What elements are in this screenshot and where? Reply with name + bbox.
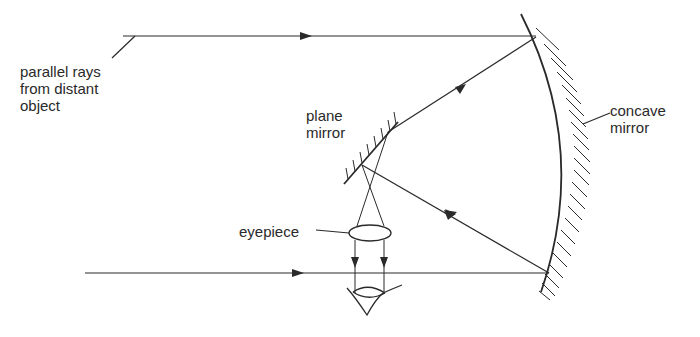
telescope-diagram <box>0 0 700 337</box>
plane-mirror-label: plane mirror <box>306 107 345 141</box>
concave-mirror-pointer <box>583 113 610 124</box>
concave-mirror <box>521 14 590 300</box>
eyepiece-output-rays <box>351 240 388 293</box>
eyepiece-label: eyepiece <box>239 223 299 240</box>
parallel-rays-pointer <box>112 36 135 58</box>
concave-mirror-label: concave mirror <box>610 102 666 136</box>
top-incoming-ray <box>123 32 536 40</box>
converging-rays <box>357 132 388 226</box>
reflected-ray-bottom <box>362 165 549 273</box>
reflected-ray-top <box>388 37 536 132</box>
parallel-rays-label: parallel rays from distant object <box>20 63 101 114</box>
plane-mirror <box>344 112 398 184</box>
eyepiece-lens <box>349 225 391 241</box>
bottom-incoming-ray <box>85 269 549 277</box>
eyepiece-pointer <box>316 230 349 233</box>
